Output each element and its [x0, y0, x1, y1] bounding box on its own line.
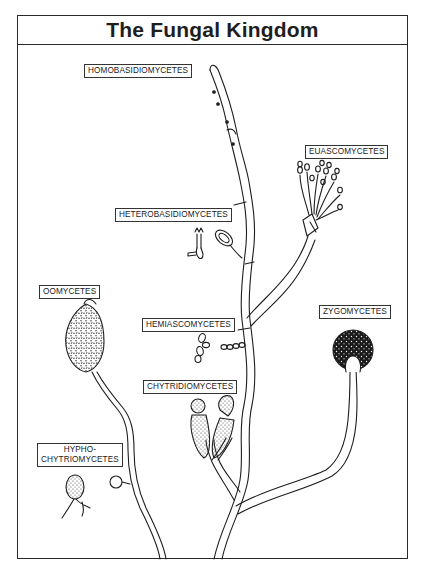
- label-homobasidiomycetes: HOMOBASIDIOMYCETES: [84, 64, 192, 78]
- heterobasidio-spore: [212, 227, 242, 258]
- label-chytridiomycetes: CHYTRIDIOMYCETES: [143, 380, 237, 394]
- label-hyphochytriomycetes-line1: HYPHO-: [41, 445, 119, 455]
- zygomycete-sporangium: [333, 330, 373, 372]
- hyphochytriomycete-cell: [62, 475, 90, 518]
- hemiascomycete-cells: [195, 333, 245, 363]
- heterobasidio-basidium: [188, 228, 203, 259]
- euascomycete-branch: [247, 160, 342, 326]
- label-oomycetes: OOMYCETES: [39, 285, 100, 299]
- label-euascomycetes: EUASCOMYCETES: [305, 145, 388, 159]
- label-zygomycetes: ZYGOMYCETES: [319, 305, 391, 319]
- label-heterobasidiomycetes: HETEROBASIDIOMYCETES: [115, 208, 232, 222]
- oomycete-sporangium: [66, 300, 104, 373]
- main-trunk-hypha: [210, 65, 255, 559]
- label-hyphochytriomycetes-line2: CHYTRIOMYCETES: [41, 455, 119, 465]
- label-hemiascomycetes: HEMIASCOMYCETES: [142, 318, 235, 332]
- chytridiomycete-sporangia: [191, 396, 234, 458]
- label-hyphochytriomycetes: HYPHO- CHYTRIOMYCETES: [37, 443, 123, 467]
